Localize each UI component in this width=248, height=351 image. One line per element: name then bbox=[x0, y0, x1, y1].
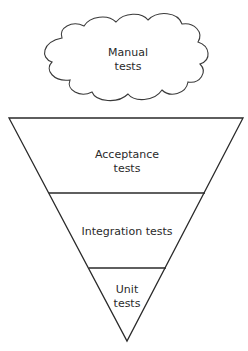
cloud-label-line1: Manual bbox=[94, 46, 162, 60]
acceptance-layer-label: Acceptance tests bbox=[84, 148, 170, 176]
unit-label-line2: tests bbox=[104, 297, 150, 311]
acceptance-label-line2: tests bbox=[84, 162, 170, 176]
unit-layer-label: Unit tests bbox=[104, 283, 150, 311]
integration-layer-label: Integration tests bbox=[74, 225, 180, 239]
cloud-label: Manual tests bbox=[94, 46, 162, 74]
acceptance-label-line1: Acceptance bbox=[84, 148, 170, 162]
diagram-canvas: Manual tests Acceptance tests Integratio… bbox=[0, 0, 248, 351]
unit-label-line1: Unit bbox=[104, 283, 150, 297]
cloud-label-line2: tests bbox=[94, 60, 162, 74]
integration-label-line1: Integration tests bbox=[74, 225, 180, 239]
